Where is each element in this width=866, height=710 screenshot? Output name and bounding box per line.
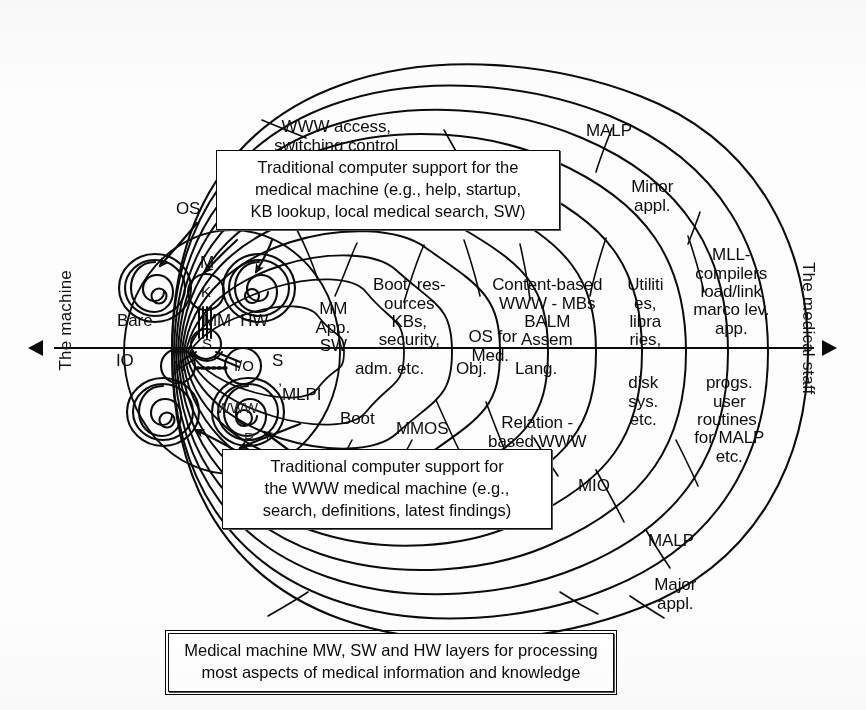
label-io: IO (116, 352, 134, 370)
label-mm-hw: MM HW (203, 312, 269, 330)
axis-label-left: The machine (56, 270, 76, 370)
label-boot: Boot (340, 410, 375, 428)
callout-top-traditional-support: Traditional computer support for the med… (216, 150, 560, 230)
label-node-m-top: M (200, 254, 214, 272)
label-node-s: S (202, 336, 212, 352)
label-disk-sys: disk sys. etc. (608, 356, 660, 448)
label-mlpi: MLPI (282, 386, 321, 404)
axis-arrow-right-icon (822, 340, 837, 356)
label-node-m-left: M (173, 358, 185, 374)
label-mio: MIO (578, 477, 610, 495)
label-os: OS (176, 200, 200, 218)
label-bare: Bare (117, 312, 153, 330)
callout-bottom-www-support: Traditional computer support for the WWW… (222, 449, 552, 529)
label-node-k: K (201, 284, 211, 300)
label-utilities: Utiliti es, libra ries, (608, 258, 664, 368)
label-malp-major: MALP (648, 532, 694, 550)
label-obj: Obj. (456, 360, 487, 378)
label-minor-appl: Minor appl. (608, 160, 678, 233)
label-malp-minor: MALP (586, 122, 632, 140)
caption-box-medical-machine-layers: Medical machine MW, SW and HW layers for… (168, 633, 614, 692)
label-node-www: WWW (216, 400, 258, 416)
label-mll-compilers: MLL- compilers load/link marco lev. app. (674, 228, 770, 357)
label-lang: Lang. (515, 360, 557, 378)
label-major-appl: Major appl. (630, 558, 702, 631)
label-node-p: P (244, 430, 254, 446)
label-adm-etc: adm. etc. (355, 360, 424, 378)
label-progs-user: progs. user routines, for MALP etc. (672, 356, 768, 485)
label-mm-app-sw: MM App. SW (296, 282, 352, 374)
label-node-io: I/O (234, 358, 254, 374)
figure-canvas: The machine The medical staff WWW access… (0, 0, 866, 710)
axis-arrow-left-icon (28, 340, 43, 356)
label-s-node-right: S (272, 352, 283, 370)
label-boot-resources: Boot res- ources KBs, security, (348, 258, 452, 368)
axis-label-right: The medical staff (798, 262, 818, 395)
label-mmos: MMOS (396, 420, 448, 438)
